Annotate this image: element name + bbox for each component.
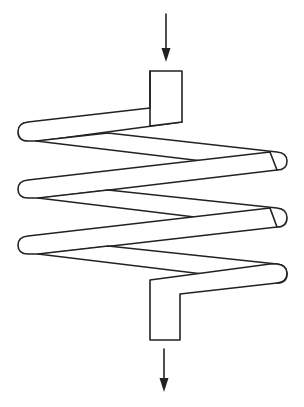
inlet-pipe: [150, 71, 182, 126]
helical-coil-diagram: [0, 0, 304, 407]
coil-segment-3: [18, 152, 277, 198]
coil-segment-5: [18, 208, 277, 254]
coil-segment-7: [150, 264, 287, 340]
outlet-arrow-icon: [160, 349, 169, 392]
coil: [18, 71, 287, 340]
inlet-arrow-icon: [162, 14, 171, 62]
